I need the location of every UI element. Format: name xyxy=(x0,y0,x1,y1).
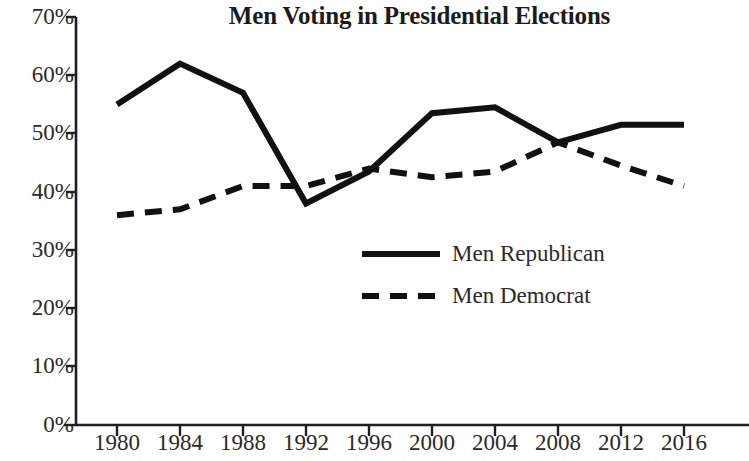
legend xyxy=(362,254,440,296)
plot-area xyxy=(0,0,749,461)
x-axis-ticks xyxy=(117,425,684,436)
legend-label-men-democrat: Men Democrat xyxy=(452,283,591,309)
chart-container: Men Voting in Presidential Elections 70%… xyxy=(0,0,749,461)
axes xyxy=(76,17,749,425)
y-axis-ticks xyxy=(64,17,76,425)
legend-label-men-republican: Men Republican xyxy=(452,241,605,267)
line-series-men-republican xyxy=(117,64,684,204)
line-series-men-democrat xyxy=(117,142,684,215)
